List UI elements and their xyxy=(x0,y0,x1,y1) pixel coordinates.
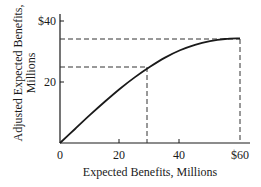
chart: $40 20 0 20 40 $60 Expected Benefits, Mi… xyxy=(0,0,261,187)
y-tick-label-40: $40 xyxy=(38,14,56,28)
x-tick-label-0: 0 xyxy=(57,148,63,162)
x-tick-label-40: 40 xyxy=(173,148,185,162)
dashed-guides xyxy=(60,39,240,143)
y-tick-label-20: 20 xyxy=(44,75,56,89)
x-tick-label-20: 20 xyxy=(113,148,125,162)
y-axis-title-line1: Adjusted Expected Benefits, xyxy=(11,5,25,142)
y-axis-title-line2: Millions xyxy=(24,52,38,93)
x-axis-title: Expected Benefits, Millions xyxy=(83,165,218,179)
benefit-curve xyxy=(60,38,240,143)
x-tick-label-60: $60 xyxy=(231,148,249,162)
